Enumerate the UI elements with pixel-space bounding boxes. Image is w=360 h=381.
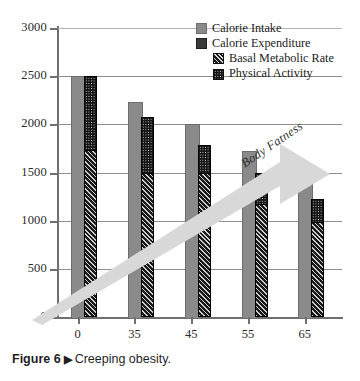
x-axis-tick (191, 317, 193, 324)
bar-segment-physical-activity (312, 200, 323, 221)
y-axis-label: 500 (28, 261, 47, 276)
y-axis-label: 2000 (21, 116, 47, 131)
bar-calorie-expenditure (84, 76, 97, 317)
bar-segment-basal-metabolic-rate (85, 148, 96, 316)
legend-swatch-icon (196, 38, 207, 49)
chart-legend: Calorie Intake Calorie Expenditure Basal… (196, 22, 334, 82)
caption-marker-icon: ▶ (61, 353, 75, 365)
x-axis-tick (78, 317, 80, 324)
bar-segment-physical-activity (256, 174, 267, 204)
y-axis-tick (50, 28, 58, 30)
caption-text: Creeping obesity. (75, 352, 171, 366)
bar-calorie-expenditure (198, 145, 211, 317)
bar-segment-basal-metabolic-rate (142, 171, 153, 316)
bar-segment-basal-metabolic-rate (256, 202, 267, 316)
bar-segment-divider (85, 150, 96, 151)
y-axis-tick (50, 269, 58, 271)
bar-calorie-expenditure (255, 173, 268, 317)
x-axis-label: 55 (228, 327, 268, 342)
bar-segment-divider (199, 173, 210, 174)
y-axis-label: 3000 (21, 20, 47, 35)
legend-item-calorie-expenditure[interactable]: Calorie Expenditure (196, 37, 334, 51)
y-axis-label: 1000 (21, 213, 47, 228)
bar-segment-physical-activity (142, 118, 153, 174)
bar-segment-physical-activity (85, 77, 96, 150)
legend-item-basal-metabolic-rate[interactable]: Basal Metabolic Rate (213, 52, 334, 66)
y-axis-label: 0 (41, 309, 47, 324)
legend-swatch-icon (213, 53, 224, 64)
x-axis-label: 65 (285, 327, 325, 342)
bar-segment-basal-metabolic-rate (199, 171, 210, 316)
y-axis-label: 1500 (21, 165, 47, 180)
x-axis-label: 0 (58, 327, 98, 342)
legend-label: Basal Metabolic Rate (229, 52, 334, 66)
legend-swatch-icon (213, 69, 224, 80)
x-axis-label: 35 (114, 327, 154, 342)
y-axis-tick (50, 317, 58, 319)
y-axis-label: 2500 (21, 68, 47, 83)
y-axis-tick (50, 76, 58, 78)
y-axis-tick (50, 221, 58, 223)
legend-swatch-icon (196, 23, 207, 34)
bar-segment-basal-metabolic-rate (312, 220, 323, 316)
legend-label: Physical Activity (229, 67, 313, 81)
legend-label: Calorie Expenditure (212, 37, 310, 51)
bar-segment-physical-activity (199, 146, 210, 174)
bar-calorie-expenditure (141, 117, 154, 317)
legend-item-calorie-intake[interactable]: Calorie Intake (196, 22, 334, 36)
y-axis-tick (50, 173, 58, 175)
figure-container: 050010001500200025003000 035455565 Body … (0, 0, 360, 381)
y-axis-tick (50, 124, 58, 126)
legend-item-physical-activity[interactable]: Physical Activity (213, 67, 334, 81)
bar-calorie-expenditure (311, 199, 324, 317)
figure-number: Figure 6 (12, 352, 61, 366)
bar-segment-divider (312, 222, 323, 223)
bar-segment-divider (256, 204, 267, 205)
figure-caption: Figure 6▶Creeping obesity. (12, 352, 171, 366)
x-axis-tick (305, 317, 307, 324)
x-axis-tick (134, 317, 136, 324)
x-axis-label: 45 (171, 327, 211, 342)
x-axis-tick (248, 317, 250, 324)
legend-label: Calorie Intake (212, 22, 281, 36)
bar-segment-divider (142, 173, 153, 174)
